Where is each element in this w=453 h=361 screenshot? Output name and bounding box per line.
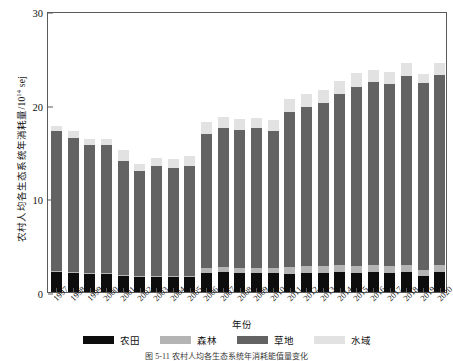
bar-group[interactable] (251, 118, 262, 292)
bar-segment (118, 161, 129, 274)
bar-segment (334, 94, 345, 264)
bar-segment (334, 265, 345, 272)
bar-segment (201, 134, 212, 268)
chart-legend: 农田森林草地水域 (0, 333, 453, 347)
bar-segment (168, 168, 179, 276)
bar-segment (384, 266, 395, 273)
bar-group[interactable] (268, 120, 279, 292)
y-tick-label: 30 (33, 8, 44, 19)
bar-segment (134, 171, 145, 276)
bar-group[interactable] (284, 99, 295, 292)
bar-group[interactable] (168, 159, 179, 292)
bar-segment (418, 83, 429, 269)
bar-segment (368, 265, 379, 272)
bar-segment (401, 63, 412, 76)
bar-segment (101, 145, 112, 272)
bar-segment (201, 122, 212, 135)
bar-segment (84, 145, 95, 272)
bar-segment (284, 99, 295, 112)
bar-group[interactable] (51, 126, 62, 292)
bar-segment (368, 82, 379, 265)
bar-segment (251, 118, 262, 128)
y-axis-title-exponent: 14 (15, 90, 22, 97)
bar-segment (151, 158, 162, 166)
bar-group[interactable] (334, 81, 345, 292)
bar-group[interactable] (401, 63, 412, 292)
bar-segment (184, 156, 195, 166)
y-tick-label: 20 (33, 101, 44, 112)
bar-group[interactable] (101, 139, 112, 292)
bar-segment (234, 130, 245, 268)
bar-segment (401, 76, 412, 265)
bar-group[interactable] (218, 117, 229, 292)
bar-segment (368, 70, 379, 82)
bar-group[interactable] (151, 158, 162, 292)
bar-group[interactable] (84, 139, 95, 292)
bar-segment (301, 94, 312, 106)
bar-segment (51, 131, 62, 271)
y-axis-title-prefix: 农村人均各生态系统年消耗量/10 (17, 97, 27, 242)
bar-segment (384, 72, 395, 84)
bar-segment (301, 266, 312, 273)
legend-label: 农田 (120, 333, 140, 347)
bar-group[interactable] (418, 74, 429, 292)
bar-group[interactable] (384, 72, 395, 292)
y-axis-title: 农村人均各生态系统年消耗量/1014 sej (14, 34, 28, 284)
bar-group[interactable] (434, 63, 445, 292)
bar-segment (118, 150, 129, 162)
legend-swatch (314, 336, 345, 344)
bar-segment (184, 166, 195, 276)
legend-item[interactable]: 森林 (160, 333, 217, 347)
legend-swatch (160, 336, 191, 344)
bar-group[interactable] (184, 156, 195, 292)
bar-segment (384, 84, 395, 266)
x-axis-title: 年份 (0, 317, 453, 331)
bar-segment (234, 119, 245, 130)
bar-group[interactable] (368, 70, 379, 292)
y-tick-label: 10 (33, 195, 44, 206)
bar-segment (334, 81, 345, 94)
legend-item[interactable]: 草地 (237, 333, 294, 347)
bar-segment (401, 265, 412, 272)
bar-segment (134, 164, 145, 171)
bar-group[interactable] (201, 122, 212, 292)
bar-segment (68, 138, 79, 272)
bar-segment (351, 87, 362, 266)
bar-segment (68, 131, 79, 138)
bar-segment (151, 166, 162, 276)
bar-segment (318, 266, 329, 273)
bar-group[interactable] (301, 94, 312, 292)
bar-segment (268, 131, 279, 268)
bar-segment (168, 159, 179, 168)
bar-group[interactable] (68, 131, 79, 292)
bar-group[interactable] (318, 90, 329, 292)
bar-segment (434, 265, 445, 272)
legend-label: 草地 (274, 333, 294, 347)
plot-area: 0102030 (47, 12, 447, 293)
legend-item[interactable]: 农田 (83, 333, 140, 347)
bar-group[interactable] (234, 119, 245, 292)
bar-segment (418, 74, 429, 83)
y-tick-label: 0 (38, 289, 43, 300)
bar-segment (284, 112, 295, 267)
bar-group[interactable] (351, 73, 362, 292)
bar-group[interactable] (118, 150, 129, 292)
bar-segment (351, 73, 362, 87)
y-axis-title-unit: sej (17, 76, 27, 90)
legend-item[interactable]: 水域 (314, 333, 371, 347)
bar-segment (268, 120, 279, 131)
bar-group[interactable] (134, 164, 145, 292)
bar-segment (434, 75, 445, 265)
bar-segment (318, 90, 329, 103)
bar-segment (301, 107, 312, 266)
bar-segment (284, 267, 295, 274)
legend-swatch (237, 336, 268, 344)
legend-label: 水域 (351, 333, 371, 347)
bar-segment (318, 103, 329, 266)
bar-segment (434, 63, 445, 75)
bar-segment (351, 266, 362, 273)
bar-series-group (48, 13, 446, 292)
bar-segment (218, 117, 229, 128)
bar-segment (251, 128, 262, 268)
